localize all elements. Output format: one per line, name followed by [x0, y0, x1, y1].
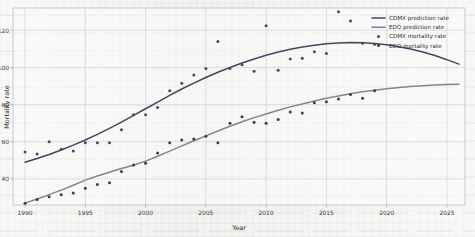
data-point: [168, 89, 171, 92]
data-point: [96, 183, 99, 186]
data-point: [216, 40, 219, 43]
data-point: [204, 135, 207, 138]
data-point: [265, 122, 268, 125]
data-point: [313, 101, 316, 104]
data-point: [72, 191, 75, 194]
data-point: [84, 187, 87, 190]
data-point: [204, 67, 207, 70]
data-point: [325, 52, 328, 55]
data-point: [60, 193, 63, 196]
data-point: [277, 118, 280, 121]
legend-label-cdmx-mortality-rate: CDMX mortality rate: [389, 33, 447, 40]
x-tick-label-1990: 1990: [18, 210, 33, 216]
data-point: [168, 141, 171, 144]
x-tick-label-2000: 2000: [138, 210, 153, 216]
data-point: [241, 63, 244, 66]
data-point: [301, 57, 304, 60]
x-tick-label-2005: 2005: [198, 210, 213, 216]
data-point: [108, 141, 111, 144]
data-point: [144, 113, 147, 116]
data-point: [277, 69, 280, 72]
data-point: [289, 58, 292, 61]
mortality-rate-chart: 1990199520002005201020152020202540608010…: [0, 0, 475, 237]
y-tick-label-120: 120: [0, 28, 9, 34]
data-point: [337, 98, 340, 101]
data-point: [373, 89, 376, 92]
legend-swatch-edo-mortality-rate: [377, 44, 380, 47]
data-point: [108, 181, 111, 184]
data-point: [216, 141, 219, 144]
data-point: [24, 151, 27, 154]
data-point: [156, 106, 159, 109]
data-point: [349, 20, 352, 23]
x-tick-label-1995: 1995: [78, 210, 93, 216]
data-point: [228, 67, 231, 70]
data-point: [241, 115, 244, 118]
data-point: [373, 43, 376, 46]
data-point: [120, 170, 123, 173]
data-point: [325, 100, 328, 103]
data-point: [180, 82, 183, 85]
y-axis-label: Mortality rate: [3, 85, 11, 128]
data-point: [253, 121, 256, 124]
legend-label-edo-mortality-rate: EDO mortality rate: [389, 43, 442, 50]
data-point: [180, 138, 183, 141]
chart-figure: 1990199520002005201020152020202540608010…: [0, 0, 475, 237]
data-point: [349, 93, 352, 96]
data-point: [60, 148, 63, 151]
data-point: [132, 113, 135, 116]
data-point: [144, 162, 147, 165]
data-point: [361, 42, 364, 45]
data-point: [36, 152, 39, 155]
legend-swatch-cdmx-mortality-rate: [377, 35, 380, 38]
data-point: [313, 50, 316, 53]
x-tick-label-2015: 2015: [319, 210, 334, 216]
data-point: [156, 151, 159, 154]
y-tick-label-40: 40: [2, 176, 10, 182]
data-point: [48, 140, 51, 143]
data-point: [361, 97, 364, 100]
data-point: [96, 141, 99, 144]
data-point: [132, 164, 135, 167]
data-point: [84, 141, 87, 144]
x-tick-label-2025: 2025: [439, 210, 454, 216]
x-tick-label-2010: 2010: [259, 210, 274, 216]
data-point: [192, 138, 195, 141]
y-tick-label-100: 100: [0, 65, 9, 71]
data-point: [192, 73, 195, 76]
data-point: [289, 111, 292, 114]
x-axis-label: Year: [231, 224, 246, 232]
data-point: [24, 202, 27, 205]
data-point: [120, 128, 123, 131]
data-point: [253, 70, 256, 73]
x-tick-label-2020: 2020: [379, 210, 394, 216]
data-point: [265, 24, 268, 27]
data-point: [72, 150, 75, 153]
data-point: [48, 195, 51, 198]
data-point: [36, 198, 39, 201]
y-tick-label-60: 60: [2, 139, 10, 145]
data-point: [337, 10, 340, 13]
data-point: [228, 122, 231, 125]
data-point: [301, 112, 304, 115]
legend-label-cdmx-prediction-rate: CDMX prediction rate: [389, 15, 449, 22]
legend-label-edo-prediction-rate: EDO prediction rate: [389, 24, 445, 31]
